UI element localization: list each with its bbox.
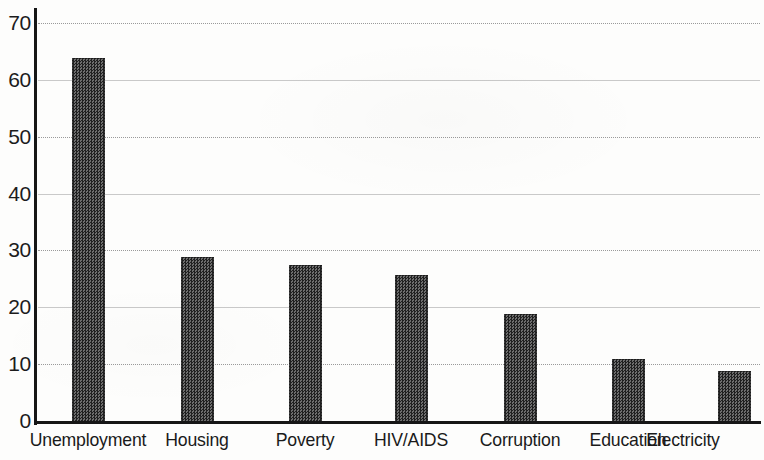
y-tick-label-70: 70 [1, 12, 31, 33]
bar-education [612, 359, 645, 422]
y-tick-label-20: 20 [1, 296, 31, 317]
x-axis-line [34, 421, 761, 424]
bar-housing [181, 257, 214, 422]
x-axis-label-clip: UnemploymentHousingPovertyHIV/AIDSCorrup… [0, 428, 764, 458]
y-axis-line [34, 8, 37, 425]
gridline-30 [38, 250, 760, 251]
y-tick-label-50: 50 [1, 126, 31, 147]
gridline-40 [38, 194, 760, 195]
x-axis-tick-labels: UnemploymentHousingPovertyHIV/AIDSCorrup… [0, 428, 764, 458]
bar-unemployment [72, 58, 105, 422]
bar-corruption [504, 314, 537, 422]
y-tick-label-60: 60 [1, 69, 31, 90]
bar-hiv-aids [395, 275, 428, 422]
y-tick-label-10: 10 [1, 353, 31, 374]
gridline-70 [38, 23, 760, 24]
y-tick-label-40: 40 [1, 183, 31, 204]
gridline-50 [38, 137, 760, 138]
gridline-60 [38, 80, 760, 81]
y-tick-label-30: 30 [1, 239, 31, 260]
bar-electricity [718, 371, 751, 422]
bar-chart: 010203040506070 UnemploymentHousingPover… [0, 0, 764, 460]
bar-series [36, 8, 762, 423]
bar-poverty [289, 265, 322, 422]
plot-area [36, 8, 762, 423]
x-tick-label-electricity: Electricity [609, 428, 758, 452]
